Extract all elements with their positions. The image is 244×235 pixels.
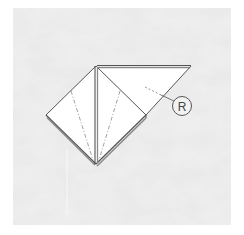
reverse-fold-label: R [178,100,187,114]
origami-diagram: R [0,0,244,235]
